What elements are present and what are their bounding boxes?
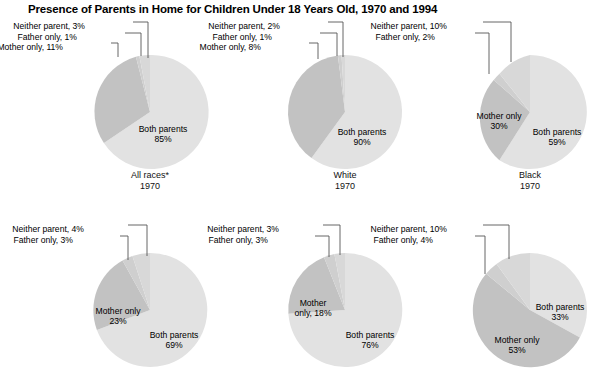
slice-label-both-parents-line1: Both parents: [533, 127, 582, 137]
leader-line-neither-parent: [328, 22, 343, 57]
slice-label-both-parents-line2: 85%: [154, 134, 172, 144]
pie-chart-black-1994: Both parents 33% Mother only 53%: [435, 248, 592, 368]
panel-caption-all-races-1970: All races* 1970: [55, 170, 245, 191]
pie-panel-white-1970: Both parents 90% Neither parent, 2% Fath…: [250, 40, 440, 230]
callout-neither-parent: Neither parent, 10%: [371, 224, 447, 235]
callout-father-only: Father only, 2%: [375, 32, 435, 43]
callout-neither-parent: Neither parent, 2%: [208, 21, 280, 32]
chart-figure: Presence of Parents in Home for Children…: [0, 0, 592, 368]
leader-line-father-only: [120, 236, 128, 260]
pie-chart-all-races-1970: Both parents 85%: [55, 40, 245, 185]
callout-father-only: Father only, 3%: [208, 235, 268, 246]
callout-neither-parent: Neither parent, 3%: [207, 224, 279, 235]
leader-line-neither-parent: [133, 22, 148, 58]
slice-label-mother-only-line1: Mother only: [495, 335, 541, 345]
leader-line-mother-only: [309, 43, 318, 59]
callout-father-only: Father only, 3%: [13, 235, 73, 246]
slice-label-both-parents-line1: Both parents: [139, 124, 188, 134]
leader-line-neither-parent: [483, 225, 509, 259]
caption-line-1: All races*: [55, 170, 245, 181]
slice-label-both-parents-line2: 90%: [353, 137, 371, 147]
slice-label-mother-only-line2: 30%: [490, 121, 508, 131]
pie-chart-black-1970: Mother only 30% Both parents 59%: [435, 40, 592, 185]
leader-line-father-only: [320, 33, 337, 56]
pie-panel-black-1994: Both parents 33% Mother only 53% Neither…: [435, 248, 592, 368]
panel-caption-black-1970: Black 1970: [435, 170, 592, 191]
callout-neither-parent: Neither parent, 10%: [371, 21, 447, 32]
callout-mother-only: Mother only, 8%: [200, 42, 261, 53]
callout-father-only: Father only, 4%: [373, 235, 433, 246]
pie-panel-all-races-1970: Both parents 85% Neither parent, 3% Fath…: [55, 40, 245, 230]
caption-line-2: 1970: [435, 181, 592, 192]
slice-label-mother-only-line1: Mother only: [477, 111, 523, 121]
caption-line-2: 1970: [250, 181, 440, 192]
pie-chart-all-races-1994: Mother only 23% Both parents 69%: [55, 248, 245, 368]
leader-line-father-only: [315, 236, 329, 257]
caption-line-2: 1970: [55, 181, 245, 192]
slice-label-both-parents-line1: Both parents: [536, 302, 585, 312]
slice-label-both-parents-line1: Both parents: [338, 127, 387, 137]
slice-label-both-parents-line1: Both parents: [150, 330, 199, 340]
leader-line-mother-only: [111, 43, 118, 57]
page-title: Presence of Parents in Home for Children…: [28, 3, 437, 15]
slice-label-both-parents-line1: Both parents: [346, 330, 395, 340]
leader-line-father-only: [475, 236, 485, 274]
slice-label-mother-only-line2: 23%: [109, 316, 127, 326]
leader-line-father-only: [125, 33, 141, 56]
slice-label-mother-only-line2: only, 18%: [294, 308, 331, 318]
pie-panel-black-1970: Mother only 30% Both parents 59% Neither…: [435, 40, 592, 230]
panel-caption-white-1970: White 1970: [250, 170, 440, 191]
slice-label-both-parents-line2: 59%: [548, 137, 566, 147]
leader-line-neither-parent: [483, 22, 511, 62]
caption-line-1: Black: [435, 170, 592, 181]
pie-chart-white-1994: Mother only, 18% Both parents 76%: [250, 248, 440, 368]
pie-panel-white-1994: Mother only, 18% Both parents 76% Neithe…: [250, 248, 440, 368]
slice-label-mother-only-line1: Mother only: [96, 306, 142, 316]
caption-line-1: White: [250, 170, 440, 181]
slice-label-both-parents-line2: 76%: [361, 340, 379, 350]
callout-neither-parent: Neither parent, 3%: [13, 21, 85, 32]
slice-label-both-parents-line2: 69%: [165, 340, 183, 350]
leader-line-father-only: [475, 33, 489, 74]
callout-mother-only: Mother only, 11%: [0, 42, 63, 53]
slice-label-mother-only-line2: 53%: [508, 345, 526, 355]
pie-chart-white-1970: Both parents 90%: [250, 40, 440, 185]
callout-neither-parent: Neither parent, 4%: [12, 224, 84, 235]
slice-label-both-parents-line2: 33%: [551, 312, 569, 322]
slice-label-mother-only-line1: Mother: [300, 298, 327, 308]
pie-panel-all-races-1994: Mother only 23% Both parents 69% Neither…: [55, 248, 245, 368]
